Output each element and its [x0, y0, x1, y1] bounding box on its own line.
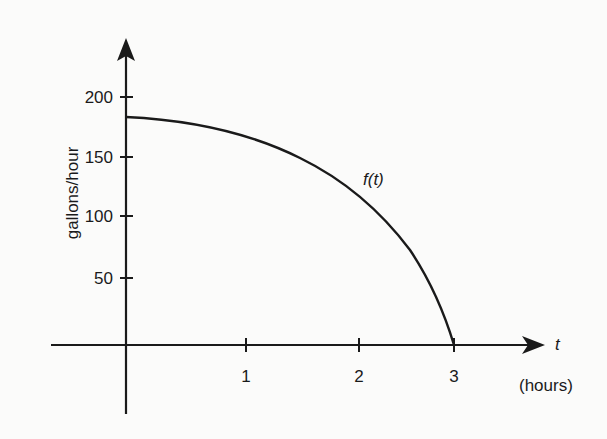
x-tick-3: 3: [449, 367, 458, 386]
x-tick-1: 1: [241, 367, 250, 386]
y-tick-150: 150: [85, 148, 113, 167]
y-tick-200: 200: [85, 88, 113, 107]
x-tick-2: 2: [354, 367, 363, 386]
x-axis-units: (hours): [519, 376, 573, 395]
curve-f-of-t: [126, 117, 454, 345]
chart: 200 150 100 50 1 2 3 t (hours) gallons/h…: [0, 0, 607, 439]
y-tick-50: 50: [94, 269, 113, 288]
y-tick-100: 100: [85, 207, 113, 226]
x-axis-label: t: [555, 335, 561, 354]
curve-label: f(t): [363, 170, 384, 189]
y-axis-label: gallons/hour: [63, 146, 82, 239]
